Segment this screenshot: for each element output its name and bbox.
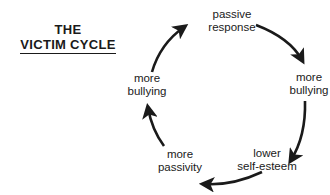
node-text: more [284,71,330,84]
node-text: more [122,72,172,85]
node-more-passivity: more passivity [150,148,210,174]
arrow-5 [152,27,184,72]
node-text: bullying [122,85,172,98]
arrow-4 [148,108,164,146]
node-text: bullying [284,84,330,97]
node-text: response [196,21,268,34]
arrow-3 [204,172,262,184]
node-more-bullying-right: more bullying [284,71,330,97]
node-text: passive [196,8,268,21]
node-text: self-esteem [232,160,302,173]
node-lower-self-esteem: lower self-esteem [232,147,302,173]
node-more-bullying-left: more bullying [122,72,172,98]
node-passive-response: passive response [196,8,268,34]
node-text: passivity [150,161,210,174]
node-text: more [150,148,210,161]
node-text: lower [232,147,302,160]
